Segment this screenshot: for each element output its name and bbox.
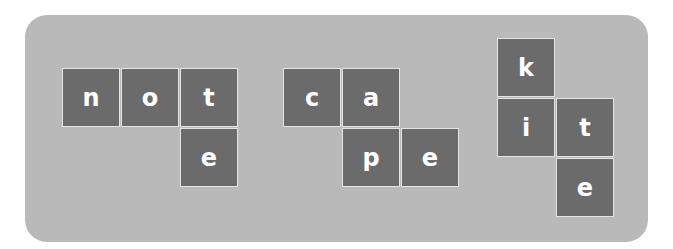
letter-tile: n [62, 68, 120, 127]
letter-tile: a [342, 68, 400, 127]
letter-tile: c [283, 68, 341, 127]
letter-tile: o [121, 68, 179, 127]
letter-tile: t [556, 98, 614, 157]
letter-tile: p [342, 128, 400, 187]
letter-tile: t [180, 68, 238, 127]
letter-tile: k [497, 38, 555, 97]
letter-tile: e [401, 128, 459, 187]
letter-tile: e [556, 158, 614, 217]
letter-tile: i [497, 98, 555, 157]
letter-tile: e [180, 128, 238, 187]
